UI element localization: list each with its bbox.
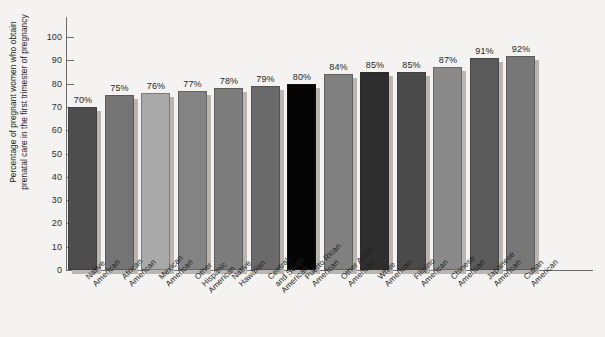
bar-value-label: 87% [428,55,468,65]
bar-value-label: 75% [100,83,140,93]
bar-value-label: 91% [465,46,505,56]
bar-value-label: 77% [173,79,213,89]
bar-value-label: 85% [355,60,395,70]
bar-value-label: 84% [319,62,359,72]
bar-value-label: 85% [392,60,432,70]
bar-value-label: 79% [246,74,286,84]
prenatal-care-bar-chart: Percentage of pregnant women who obtain … [0,0,605,337]
bars-layer: 70%75%76%77%78%79%80%84%85%85%87%91%92% [0,0,605,337]
bar-value-label: 92% [501,44,541,54]
bar-value-label: 78% [209,76,249,86]
bar-group: 70% [68,107,102,270]
bar [68,107,97,270]
bar-value-label: 70% [63,95,103,105]
bar-value-label: 76% [136,81,176,91]
bar-value-label: 80% [282,72,322,82]
